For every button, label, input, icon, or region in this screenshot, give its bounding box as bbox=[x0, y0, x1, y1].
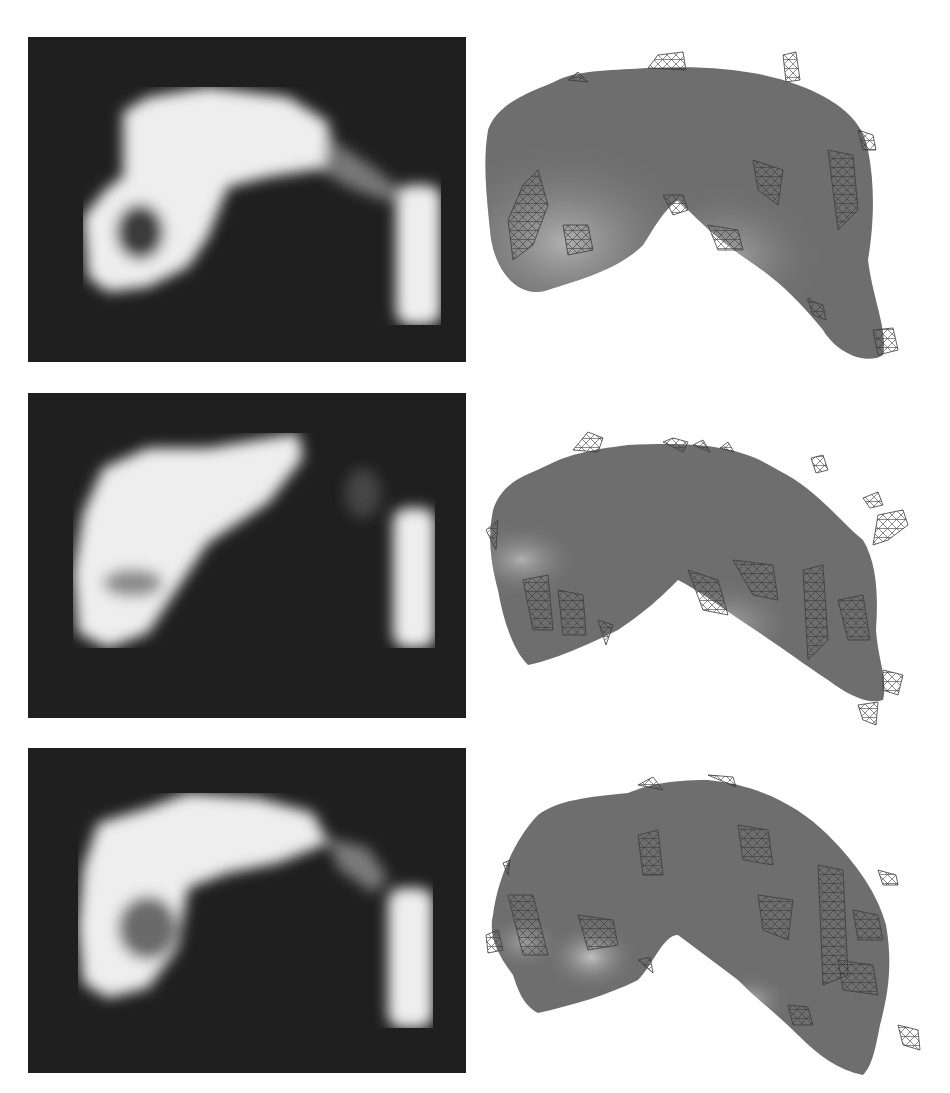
mri-slice-2 bbox=[28, 393, 466, 718]
mri-image-2 bbox=[28, 393, 466, 718]
surface-render-1 bbox=[478, 10, 938, 365]
surface-render-3 bbox=[478, 735, 938, 1090]
mri-image-1 bbox=[28, 37, 466, 362]
surface-image-3 bbox=[478, 735, 938, 1090]
mri-slice-1 bbox=[28, 37, 466, 362]
mri-image-3 bbox=[28, 748, 466, 1073]
surface-image-2 bbox=[478, 380, 938, 735]
figure bbox=[0, 0, 950, 1093]
surface-render-2 bbox=[478, 380, 938, 735]
surface-image-1 bbox=[478, 10, 938, 365]
mri-slice-3 bbox=[28, 748, 466, 1073]
